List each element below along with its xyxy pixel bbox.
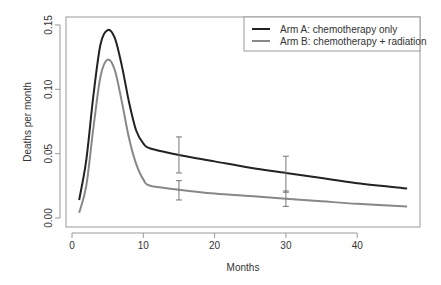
x-tick-label: 10 <box>138 240 150 251</box>
x-axis-title: Months <box>227 262 260 273</box>
x-tick-label: 40 <box>352 240 364 251</box>
legend-label: Arm B: chemotherapy + radiation <box>280 36 426 47</box>
legend: Arm A: chemotherapy onlyArm B: chemother… <box>244 17 426 51</box>
x-tick-label: 30 <box>280 240 292 251</box>
legend-label: Arm A: chemotherapy only <box>280 24 397 35</box>
x-tick-label: 20 <box>209 240 221 251</box>
line-chart: 0.000.050.100.15 010203040 Arm A: chemot… <box>0 0 441 285</box>
y-axis-title: Deaths per month <box>22 82 33 162</box>
series-arm-b <box>79 60 407 213</box>
x-tick-label: 0 <box>69 240 75 251</box>
series-arm-a <box>79 30 407 200</box>
y-tick-label: 0.15 <box>43 15 54 35</box>
x-axis: 010203040 <box>69 233 363 251</box>
series-layer <box>79 30 407 213</box>
y-axis: 0.000.050.100.15 <box>43 15 60 228</box>
y-tick-label: 0.00 <box>43 208 54 228</box>
y-tick-label: 0.05 <box>43 143 54 163</box>
y-tick-label: 0.10 <box>43 79 54 99</box>
